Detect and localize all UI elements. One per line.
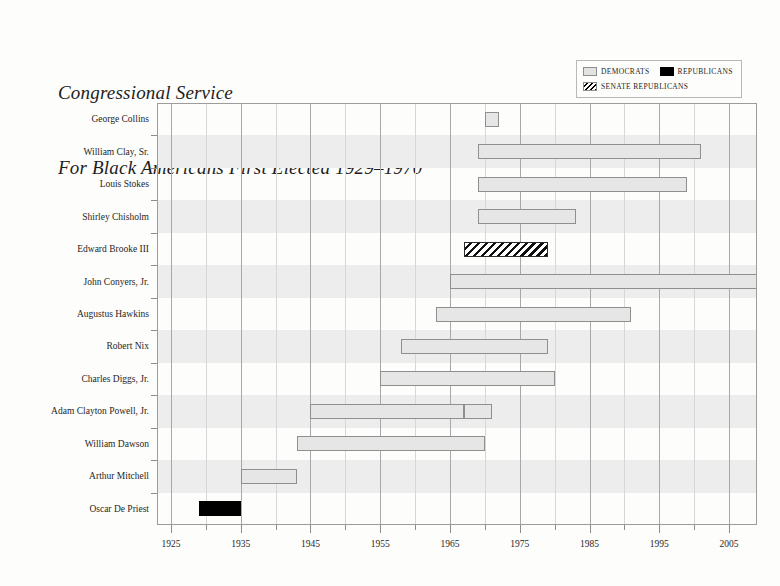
- x-axis-tick-1970: [485, 525, 486, 530]
- y-axis-label: Adam Clayton Powell, Jr.: [51, 406, 149, 416]
- gridline-1960: [415, 103, 416, 525]
- legend-row-2: Senate Republicans: [583, 80, 736, 93]
- gridline-1940: [276, 103, 277, 525]
- legend-swatch-democrats-icon: [583, 67, 597, 76]
- y-axis-tick: [151, 298, 157, 299]
- service-bar[interactable]: [401, 339, 548, 354]
- x-axis-tick-1935: [241, 525, 242, 533]
- legend-label-senate-republicans: Senate Republicans: [601, 82, 688, 91]
- y-axis-tick: [151, 168, 157, 169]
- x-axis-tick-1940: [276, 525, 277, 530]
- y-axis-label: Edward Brooke III: [77, 244, 149, 254]
- gridline-1945: [310, 103, 311, 525]
- y-axis-tick: [151, 135, 157, 136]
- gridline-1935: [241, 103, 242, 525]
- gridline-1930: [206, 103, 207, 525]
- x-axis-tick-2005: [729, 525, 730, 533]
- x-axis-tick-2000: [694, 525, 695, 530]
- service-bar[interactable]: [450, 274, 757, 289]
- service-bar[interactable]: [478, 177, 687, 192]
- legend-label-republicans: Republicans: [678, 67, 733, 76]
- row-band: [157, 200, 757, 232]
- x-axis-tick-1930: [206, 525, 207, 530]
- service-bar[interactable]: [297, 436, 485, 451]
- gridline-2005: [729, 103, 730, 525]
- y-axis-tick: [151, 428, 157, 429]
- y-axis-tick: [151, 363, 157, 364]
- x-axis-label: 2005: [720, 539, 739, 549]
- y-axis-label: Augustus Hawkins: [77, 309, 149, 319]
- legend-swatch-senate-republicans-icon: [583, 82, 597, 91]
- service-bar[interactable]: [464, 404, 492, 419]
- y-axis-label: William Clay, Sr.: [84, 147, 150, 157]
- y-axis-tick: [151, 460, 157, 461]
- x-axis-label: 1965: [441, 539, 460, 549]
- service-bar[interactable]: [199, 501, 241, 516]
- y-axis-label: Arthur Mitchell: [89, 471, 149, 481]
- x-axis-label: 1995: [650, 539, 669, 549]
- service-bar[interactable]: [478, 144, 701, 159]
- y-axis-tick: [151, 200, 157, 201]
- y-axis-label: William Dawson: [85, 439, 149, 449]
- y-axis-label: George Collins: [91, 114, 149, 124]
- y-axis-labels: George CollinsWilliam Clay, Sr.Louis Sto…: [0, 103, 149, 525]
- gridline-1950: [345, 103, 346, 525]
- y-axis-tick: [151, 265, 157, 266]
- x-axis-label: 1955: [371, 539, 390, 549]
- y-axis-tick: [151, 493, 157, 494]
- x-axis-label: 1935: [231, 539, 250, 549]
- x-axis-tick-1965: [450, 525, 451, 533]
- y-axis-label: Shirley Chisholm: [82, 212, 149, 222]
- chart-legend: Democrats Republicans Senate Republicans: [576, 60, 742, 98]
- service-bar[interactable]: [380, 371, 554, 386]
- y-axis-label: John Conyers, Jr.: [84, 277, 149, 287]
- y-axis-label: Louis Stokes: [100, 179, 149, 189]
- gridline-1925: [171, 103, 172, 525]
- service-bar[interactable]: [436, 307, 631, 322]
- service-bar[interactable]: [464, 242, 548, 257]
- x-axis-label: 1925: [161, 539, 180, 549]
- x-axis-tick-1995: [659, 525, 660, 533]
- x-axis-label: 1975: [510, 539, 529, 549]
- legend-swatch-republicans-icon: [660, 67, 674, 76]
- y-axis-tick: [151, 395, 157, 396]
- x-axis-tick-1985: [590, 525, 591, 533]
- x-axis-label: 1985: [580, 539, 599, 549]
- y-axis-tick: [151, 233, 157, 234]
- y-axis-tick: [151, 330, 157, 331]
- x-axis-tick-1990: [624, 525, 625, 530]
- y-axis-label: Charles Diggs, Jr.: [81, 374, 149, 384]
- chart-plot-area: [157, 103, 757, 525]
- x-axis-tick-1950: [345, 525, 346, 530]
- service-bar[interactable]: [310, 404, 463, 419]
- title-line-1: Congressional Service: [58, 80, 422, 105]
- x-axis-tick-1945: [310, 525, 311, 533]
- legend-item-senate-republicans: Senate Republicans: [583, 82, 688, 91]
- service-bar[interactable]: [478, 209, 576, 224]
- x-axis-tick-1960: [415, 525, 416, 530]
- y-axis-label: Robert Nix: [107, 341, 149, 351]
- x-axis-tick-1980: [555, 525, 556, 530]
- gridline-1955: [380, 103, 381, 525]
- gridline-2000: [694, 103, 695, 525]
- x-axis-tick-1925: [171, 525, 172, 533]
- x-axis-label: 1945: [301, 539, 320, 549]
- x-axis-tick-1975: [520, 525, 521, 533]
- legend-row-1: Democrats Republicans: [583, 65, 736, 78]
- x-axis-tick-1955: [380, 525, 381, 533]
- service-bar[interactable]: [241, 469, 297, 484]
- service-bar[interactable]: [485, 112, 499, 127]
- legend-item-republicans: Republicans: [660, 67, 733, 76]
- legend-item-democrats: Democrats: [583, 67, 650, 76]
- gridline-1995: [659, 103, 660, 525]
- y-axis-label: Oscar De Priest: [89, 504, 149, 514]
- legend-label-democrats: Democrats: [601, 67, 650, 76]
